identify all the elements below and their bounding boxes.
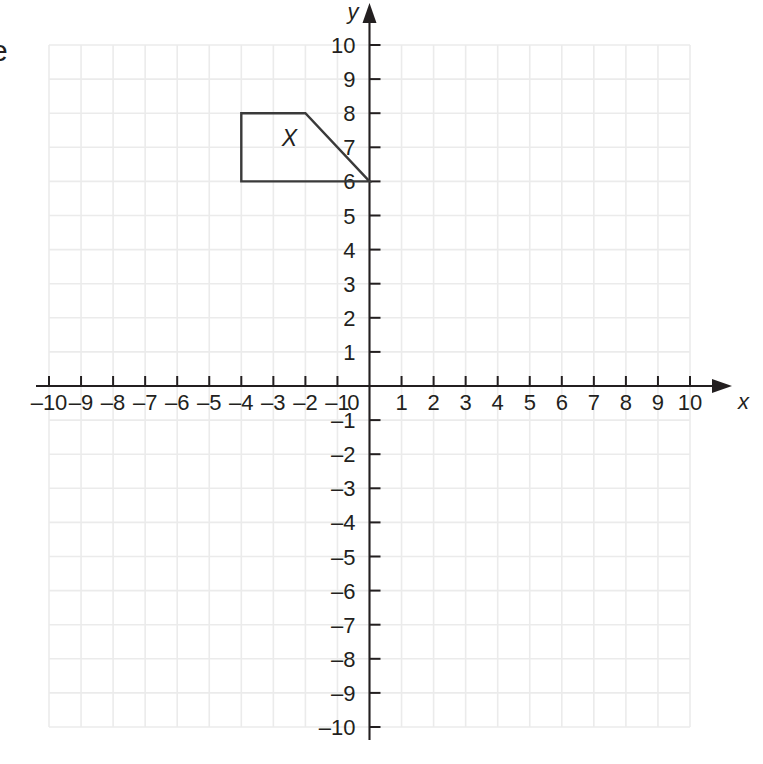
y-tick-label: 8: [343, 101, 355, 126]
y-axis-arrowhead: [363, 3, 377, 23]
y-tick-label: –7: [331, 613, 355, 638]
x-tick-label: 2: [427, 390, 439, 415]
origin-label: 0: [347, 390, 359, 415]
x-tick-label: –5: [197, 390, 221, 415]
y-axis-name-label: y: [346, 0, 361, 24]
y-tick-label: 2: [343, 306, 355, 331]
coordinate-plane-svg: –10–9–8–7–6–5–4–3–2–11234567891010987654…: [0, 0, 763, 764]
x-axis-arrowhead: [712, 379, 732, 393]
x-tick-label: 1: [395, 390, 407, 415]
shape-label: X: [281, 125, 299, 151]
y-tick-label: 4: [343, 238, 355, 263]
y-tick-label: 1: [343, 340, 355, 365]
x-tick-label: 4: [492, 390, 504, 415]
x-tick-label: –7: [133, 390, 157, 415]
x-tick-label: –6: [165, 390, 189, 415]
y-tick-label: 10: [331, 33, 355, 58]
y-tick-label: 3: [343, 272, 355, 297]
y-tick-label: –10: [319, 715, 356, 740]
x-tick-label: –2: [293, 390, 317, 415]
x-tick-label: 10: [678, 390, 702, 415]
x-tick-label: 9: [652, 390, 664, 415]
y-tick-label: –6: [331, 579, 355, 604]
x-axis-name-label: x: [737, 389, 750, 414]
x-tick-label: 7: [588, 390, 600, 415]
coordinate-plane-figure: e –10–9–8–7–6–5–4–3–2–112345678910109876…: [0, 0, 763, 764]
x-tick-label: 6: [556, 390, 568, 415]
x-tick-label: –9: [69, 390, 93, 415]
y-tick-label: –8: [331, 647, 355, 672]
y-tick-label: 9: [343, 67, 355, 92]
x-tick-label: –10: [31, 390, 68, 415]
y-tick-label: 5: [343, 204, 355, 229]
x-tick-label: –4: [229, 390, 253, 415]
y-tick-label: –2: [331, 442, 355, 467]
x-tick-label: 8: [620, 390, 632, 415]
y-tick-label: –4: [331, 510, 355, 535]
x-tick-label: –8: [101, 390, 125, 415]
x-tick-label: 5: [524, 390, 536, 415]
y-tick-label: –5: [331, 545, 355, 570]
y-tick-label: –3: [331, 476, 355, 501]
y-tick-label: –9: [331, 681, 355, 706]
x-tick-label: 3: [460, 390, 472, 415]
x-tick-label: –3: [261, 390, 285, 415]
